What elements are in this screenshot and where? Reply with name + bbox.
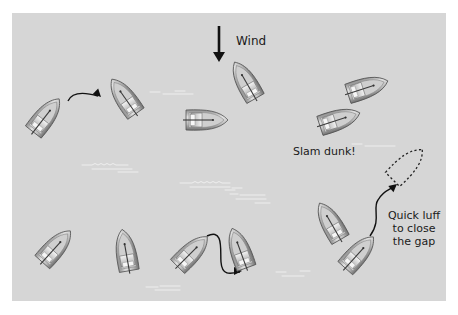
water-background: [12, 13, 446, 301]
quick-luff-line-2: to close: [393, 222, 436, 235]
quick-luff-label: Quick luff to close the gap: [388, 209, 441, 248]
quick-luff-line-1: Quick luff: [388, 209, 441, 222]
sailing-diagram: Wind Slam dunk! Quick luff to close the …: [0, 0, 458, 315]
quick-luff-line-3: the gap: [393, 235, 435, 248]
slam-dunk-label: Slam dunk!: [293, 145, 356, 158]
wind-label: Wind: [236, 34, 266, 48]
